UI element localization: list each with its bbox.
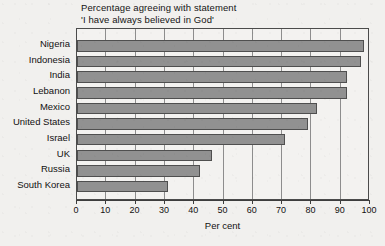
x-tick-label: 10 [92,205,118,215]
bar-row [77,178,368,194]
bar [77,56,361,68]
bar-row [77,100,368,116]
x-tick [193,200,194,204]
x-tick-label: 90 [327,205,353,215]
x-tick [281,200,282,204]
x-tick [76,200,77,204]
category-label: Israel [47,132,70,143]
x-tick-label: 60 [239,205,265,215]
category-label: Indonesia [29,54,70,65]
category-label: Mexico [40,101,70,112]
bar-series [77,29,368,199]
category-label: Lebanon [33,85,70,96]
bar [77,181,168,193]
category-label: India [49,69,70,80]
category-axis-labels: NigeriaIndonesiaIndiaLebanonMexicoUnited… [0,28,73,200]
bar-row [77,38,368,54]
bar-row [77,131,368,147]
bar-row [77,116,368,132]
x-tick-label: 20 [122,205,148,215]
bar [77,71,347,83]
bar-row [77,53,368,69]
x-tick-label: 50 [210,205,236,215]
chart-subtitle: 'I have always believed in God' [81,14,237,26]
x-tick [164,200,165,204]
x-tick [369,200,370,204]
bar-row [77,69,368,85]
chart-title: Percentage agreeing with statement [81,2,237,14]
bar [77,40,364,52]
x-axis-title: Per cent [76,220,369,231]
x-tick [340,200,341,204]
category-label: Nigeria [40,38,70,49]
x-tick-label: 80 [297,205,323,215]
x-tick [135,200,136,204]
bar [77,150,212,162]
chart-title-block: Percentage agreeing with statement 'I ha… [81,2,237,26]
bar-chart-figure: Percentage agreeing with statement 'I ha… [0,0,385,246]
bar-row [77,147,368,163]
bar-row [77,85,368,101]
x-tick-label: 40 [180,205,206,215]
bar [77,118,308,130]
x-tick [310,200,311,204]
category-label: United States [13,116,70,127]
category-label: UK [57,148,70,159]
x-tick-label: 100 [356,205,382,215]
x-tick [105,200,106,204]
x-tick-label: 70 [268,205,294,215]
x-tick [223,200,224,204]
bar [77,87,347,99]
category-label: South Korea [17,179,70,190]
bar [77,103,317,115]
x-tick [252,200,253,204]
plot-area [76,28,369,200]
bar-row [77,163,368,179]
category-label: Russia [41,163,70,174]
bar [77,165,200,177]
bar [77,134,285,146]
x-tick-label: 30 [151,205,177,215]
x-tick-label: 0 [63,205,89,215]
